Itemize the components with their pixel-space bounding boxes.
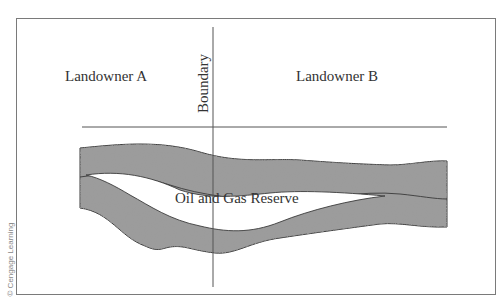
diagram-canvas [0,0,503,305]
landowner-a-label: Landowner A [65,68,147,85]
reserve-label: Oil and Gas Reserve [175,190,299,207]
boundary-label: Boundary [195,54,212,114]
copyright-credit: © Cengage Learning [6,227,15,297]
landowner-b-label: Landowner B [296,68,378,85]
